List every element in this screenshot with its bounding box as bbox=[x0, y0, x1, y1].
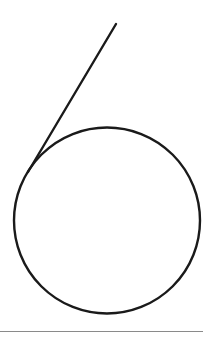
six-stem-stroke bbox=[28, 24, 116, 172]
six-bowl-circle bbox=[14, 128, 200, 314]
numeral-six-drawing bbox=[0, 0, 214, 339]
